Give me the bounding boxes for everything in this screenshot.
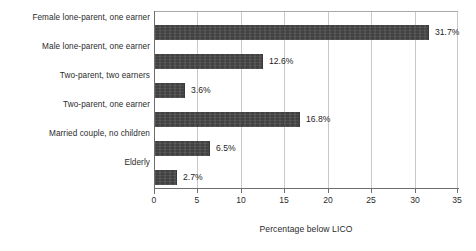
- x-tick-label-5: 25: [356, 195, 386, 206]
- category-label-4: Married couple, no children: [0, 129, 150, 139]
- bar-value-label-0: 31.7%: [435, 25, 459, 40]
- x-tick-mark-0: [154, 188, 155, 193]
- bar-two-parent-two-earners: [154, 83, 185, 98]
- bar-female-lone-parent-one-earner: [154, 25, 429, 40]
- y-axis-line: [154, 11, 155, 194]
- x-tick-mark-10: [241, 188, 242, 193]
- x-tick-label-0: 0: [139, 195, 169, 206]
- bar-value-label-3: 16.8%: [306, 112, 330, 127]
- x-tick-label-1: 5: [182, 195, 212, 206]
- plot-area: 31.7% 12.6% 3.6% 16.8% 6.5% 2.7%: [154, 11, 458, 188]
- x-tick-mark-35: [457, 188, 458, 193]
- x-tick-mark-30: [415, 188, 416, 193]
- category-label-3: Two-parent, one earner: [0, 100, 150, 110]
- bar-value-label-2: 3.6%: [191, 83, 211, 98]
- bar-elderly: [154, 170, 177, 185]
- category-label-5: Elderly: [0, 158, 150, 168]
- x-tick-mark-15: [284, 188, 285, 193]
- category-label-0: Female lone-parent, one earner: [0, 13, 150, 23]
- x-axis-title: Percentage below LICO: [154, 224, 458, 235]
- x-tick-mark-20: [328, 188, 329, 193]
- bar-value-label-1: 12.6%: [269, 54, 293, 69]
- bar-married-couple-no-children: [154, 141, 210, 156]
- category-axis-labels: Female lone-parent, one earner Male lone…: [0, 11, 150, 188]
- x-tick-mark-5: [197, 188, 198, 193]
- bar-male-lone-parent-one-earner: [154, 54, 263, 69]
- x-tick-label-6: 30: [400, 195, 430, 206]
- bar-two-parent-one-earner: [154, 112, 300, 127]
- x-tick-label-3: 15: [269, 195, 299, 206]
- x-axis-line: [154, 188, 459, 189]
- bar-value-label-4: 6.5%: [216, 141, 236, 156]
- bar-chart: Female lone-parent, one earner Male lone…: [0, 0, 476, 251]
- x-tick-mark-25: [371, 188, 372, 193]
- category-label-2: Two-parent, two earners: [0, 71, 150, 81]
- category-label-1: Male lone-parent, one earner: [0, 42, 150, 52]
- bar-value-label-5: 2.7%: [183, 170, 203, 185]
- x-tick-label-2: 10: [226, 195, 256, 206]
- x-tick-label-4: 20: [313, 195, 343, 206]
- x-tick-label-7: 35: [442, 195, 472, 206]
